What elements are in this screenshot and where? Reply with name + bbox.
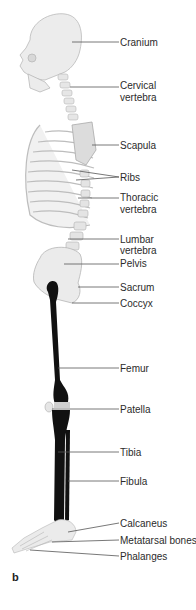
- label-metatarsal-bones: Metatarsal bones: [120, 535, 196, 546]
- label-pelvis: Pelvis: [120, 258, 147, 269]
- label-cranium: Cranium: [120, 37, 158, 48]
- label-cervical: Cervical: [120, 80, 156, 91]
- label-calcaneus: Calcaneus: [120, 518, 167, 529]
- skull: [20, 14, 81, 92]
- label-ribs: Ribs: [120, 172, 140, 183]
- label-lumbar-vertebra: vertebra: [120, 245, 157, 256]
- label-cervical-vertebra: vertebra: [120, 92, 157, 103]
- patella: [45, 402, 53, 412]
- panel-letter: b: [12, 571, 19, 583]
- label-thoracic-vertebra: vertebra: [120, 204, 157, 215]
- label-sacrum: Sacrum: [120, 282, 154, 293]
- label-tibia: Tibia: [120, 447, 141, 458]
- fibula: [65, 430, 70, 522]
- label-lumbar: Lumbar: [120, 234, 154, 245]
- skeleton-diagram: Cranium Cervical vertebra Scapula Ribs T…: [0, 0, 196, 610]
- label-patella: Patella: [120, 404, 151, 415]
- label-fibula: Fibula: [120, 476, 147, 487]
- label-femur: Femur: [120, 363, 149, 374]
- label-scapula: Scapula: [120, 140, 156, 151]
- scapula: [72, 122, 96, 165]
- label-coccyx: Coccyx: [120, 298, 153, 309]
- cervical-spine: [58, 74, 78, 120]
- label-thoracic: Thoracic: [120, 192, 158, 203]
- foot: [12, 520, 76, 553]
- label-phalanges: Phalanges: [120, 551, 167, 562]
